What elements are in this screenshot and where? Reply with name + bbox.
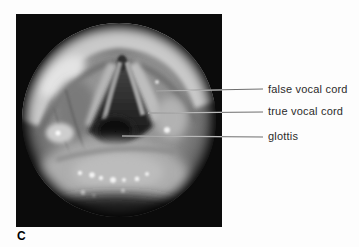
label-false-vocal-cord: false vocal cord (268, 83, 348, 95)
larynx-endoscopy-image (16, 14, 222, 227)
label-glottis: glottis (268, 130, 298, 142)
figure-panel: false vocal cord true vocal cord glottis… (0, 0, 359, 247)
label-true-vocal-cord: true vocal cord (268, 105, 343, 117)
panel-letter: C (17, 229, 26, 243)
endoscopic-photo-frame (16, 14, 222, 227)
